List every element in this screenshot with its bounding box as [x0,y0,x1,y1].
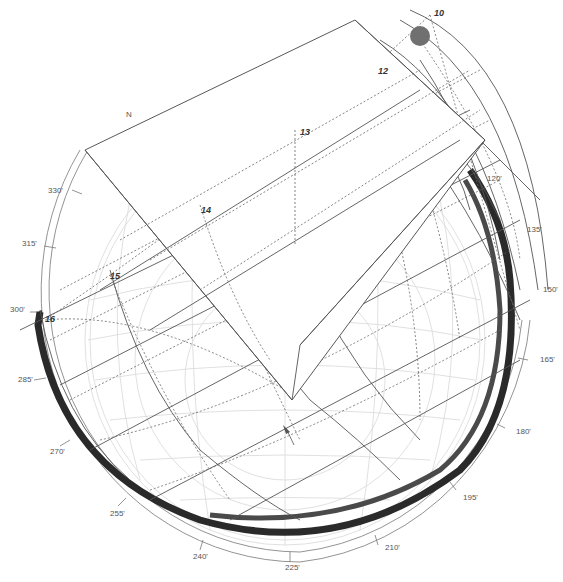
azimuth-label: 270' [50,447,65,456]
north-label: N [126,110,132,119]
sun-position-marker [410,26,430,46]
azimuth-label: 285' [18,375,33,384]
azimuth-label: 210' [385,543,400,552]
hour-label: 10 [434,8,444,18]
azimuth-label: 315' [22,239,37,248]
azimuth-label: 225' [285,563,300,572]
azimuth-label: 195' [463,493,478,502]
azimuth-label: 330' [48,186,63,195]
azimuth-label: 240' [193,552,208,561]
sun-path-diagram: N 330' 315' 300' 285' 270' 255' 240' 225… [0,0,563,582]
azimuth-label: 150' [543,285,558,294]
hour-label: 15 [110,271,121,281]
hour-label: 13 [300,127,310,137]
hour-label: 16 [45,314,56,324]
azimuth-label: 180' [516,427,531,436]
azimuth-label: 120' [487,174,502,183]
hour-label: 12 [378,66,388,76]
azimuth-label: 300' [10,305,25,314]
azimuth-label: 135' [527,225,542,234]
hour-label: 14 [201,205,211,215]
azimuth-label: 165' [540,355,555,364]
azimuth-label: 255' [110,509,125,518]
